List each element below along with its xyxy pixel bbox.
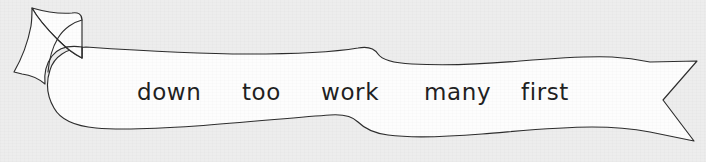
sight-word-2[interactable]: too [242, 79, 281, 105]
sight-word-4[interactable]: many [424, 79, 491, 105]
sight-word-3[interactable]: work [321, 79, 379, 105]
worksheet-canvas: down too work many first [0, 0, 706, 162]
sight-word-1[interactable]: down [137, 79, 201, 105]
sight-word-5[interactable]: first [521, 79, 569, 105]
